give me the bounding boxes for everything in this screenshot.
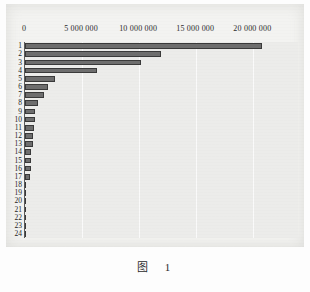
plot-area xyxy=(24,42,298,238)
bar xyxy=(25,190,26,196)
bar xyxy=(25,76,55,82)
x-tick-label: 20 000 000 xyxy=(233,24,271,34)
bar-row xyxy=(25,215,26,221)
bar-row xyxy=(25,182,26,188)
figure-root: 05 000 00010 000 00015 000 00020 000 000… xyxy=(0,0,310,292)
bar xyxy=(25,84,48,90)
bar-row xyxy=(25,198,26,204)
bar xyxy=(25,223,26,229)
y-tick-label: 9 xyxy=(18,108,22,116)
bar-row xyxy=(25,43,262,49)
bars-layer xyxy=(25,42,298,238)
bar-row xyxy=(25,223,26,229)
bar-row xyxy=(25,207,26,213)
bar-row xyxy=(25,158,31,164)
bar-row xyxy=(25,149,31,155)
bar xyxy=(25,133,33,139)
y-tick-label: 8 xyxy=(18,99,22,107)
bar-row xyxy=(25,76,55,82)
bar xyxy=(25,109,35,115)
y-tick-label: 14 xyxy=(15,148,23,156)
scanned-figure-panel: 05 000 00010 000 00015 000 00020 000 000… xyxy=(6,4,304,247)
bar-row xyxy=(25,231,26,237)
bar xyxy=(25,174,30,180)
bar-row xyxy=(25,100,38,106)
bar xyxy=(25,166,31,172)
bar xyxy=(25,198,26,204)
bar xyxy=(25,141,33,147)
bar xyxy=(25,215,26,221)
y-tick-label: 20 xyxy=(15,197,23,205)
bar xyxy=(25,158,31,164)
bar-row xyxy=(25,109,35,115)
bar xyxy=(25,60,141,66)
bar xyxy=(25,125,34,131)
y-tick-label: 3 xyxy=(18,59,22,67)
x-tick-label: 10 000 000 xyxy=(119,24,157,34)
bar xyxy=(25,43,262,49)
bar-row xyxy=(25,190,26,196)
bar xyxy=(25,51,161,57)
x-tick-label: 5 000 000 xyxy=(64,24,98,34)
y-tick-label: 2 xyxy=(18,50,22,58)
x-axis-top: 05 000 00010 000 00015 000 00020 000 000 xyxy=(24,22,298,42)
bar-row xyxy=(25,68,97,74)
y-tick-label: 15 xyxy=(15,157,23,165)
bar-row xyxy=(25,141,33,147)
bar xyxy=(25,117,35,123)
bar-row xyxy=(25,125,34,131)
bar-row xyxy=(25,84,48,90)
bar xyxy=(25,182,26,188)
bar-row xyxy=(25,133,33,139)
bar-row xyxy=(25,60,141,66)
bar xyxy=(25,207,26,213)
y-tick-label: 24 xyxy=(15,230,23,238)
bar-row xyxy=(25,92,44,98)
figure-caption: 图 1 xyxy=(0,258,310,274)
bar-chart: 05 000 00010 000 00015 000 00020 000 000… xyxy=(24,22,298,240)
bar-row xyxy=(25,51,161,57)
y-tick-label: 21 xyxy=(15,206,23,214)
x-tick-label: 15 000 000 xyxy=(176,24,214,34)
bar-row xyxy=(25,174,30,180)
bar xyxy=(25,68,97,74)
y-axis-category-labels: 123456789101112131415161718192021222324 xyxy=(8,42,22,238)
bar xyxy=(25,149,31,155)
x-tick-label: 0 xyxy=(22,24,26,34)
bar xyxy=(25,92,44,98)
bar-row xyxy=(25,166,31,172)
bar-row xyxy=(25,117,35,123)
bar xyxy=(25,231,26,237)
bar xyxy=(25,100,38,106)
